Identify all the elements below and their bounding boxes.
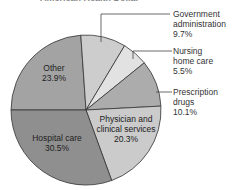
label-physician: Physician and clinical services 20.3% — [93, 114, 159, 144]
label-pct: 20.3% — [93, 134, 159, 144]
label-rx: Prescription drugs 10.1% — [173, 87, 218, 117]
label-text: Government — [173, 9, 226, 19]
label-hospital: Hospital care 30.5% — [26, 133, 88, 153]
label-pct: 23.9% — [34, 73, 74, 83]
label-nursing: Nursing home care 5.5% — [173, 46, 213, 76]
label-text: Physician and — [93, 114, 159, 124]
label-text: Hospital care — [26, 133, 88, 143]
leader-line-govt — [101, 14, 170, 42]
label-text: home care — [173, 56, 213, 66]
label-text: administration — [173, 19, 226, 29]
label-pct: 9.7% — [173, 29, 226, 39]
label-text: Other — [34, 63, 74, 73]
label-govt: Government administration 9.7% — [173, 9, 226, 39]
label-other: Other 23.9% — [34, 63, 74, 83]
label-pct: 10.1% — [173, 107, 218, 117]
label-text: Nursing — [173, 46, 213, 56]
label-text: drugs — [173, 97, 218, 107]
label-pct: 30.5% — [26, 143, 88, 153]
label-text: clinical services — [93, 124, 159, 134]
label-text: Prescription — [173, 87, 218, 97]
label-pct: 5.5% — [173, 66, 213, 76]
